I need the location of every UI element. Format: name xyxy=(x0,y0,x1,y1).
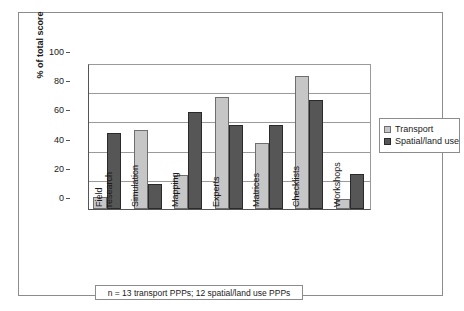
y-tick-label: 60 xyxy=(40,106,64,115)
x-category-label: Mapping xyxy=(170,141,180,207)
y-tick-mark xyxy=(66,81,70,82)
y-tick-label: 80 xyxy=(40,77,64,86)
x-category-label: Checklists xyxy=(291,141,301,207)
footnote-box: n = 13 transport PPPs; 12 spatial/land u… xyxy=(95,285,303,300)
bar-spatial-land-use xyxy=(148,184,162,209)
figure-frame: % of total score 020406080100 Field rese… xyxy=(18,12,443,296)
legend-item-spatial-land-use: Spatial/land use xyxy=(384,136,456,146)
y-tick-label: 20 xyxy=(40,165,64,174)
y-tick-label: 100 xyxy=(40,48,64,57)
y-tick-label: 40 xyxy=(40,136,64,145)
bar-spatial-land-use xyxy=(350,174,364,209)
x-tick-mark xyxy=(272,199,273,203)
x-category-label: Workshops xyxy=(332,141,342,207)
bar-spatial-land-use xyxy=(269,125,283,209)
x-tick-mark xyxy=(353,199,354,203)
legend-label-transport: Transport xyxy=(395,124,433,134)
bar-spatial-land-use xyxy=(309,100,323,209)
legend-swatch-icon-spatial-land-use xyxy=(384,138,391,145)
bar-spatial-land-use xyxy=(188,112,202,209)
x-tick-mark xyxy=(313,199,314,203)
y-tick-mark xyxy=(66,110,70,111)
x-category-label: Simulation xyxy=(130,141,140,207)
x-category-label: Field research xyxy=(94,141,114,207)
legend-swatch-icon-transport xyxy=(384,126,391,133)
y-tick-mark xyxy=(66,52,70,53)
legend-label-spatial-land-use: Spatial/land use xyxy=(395,136,459,146)
footnote-text: n = 13 transport PPPs; 12 spatial/land u… xyxy=(108,288,291,298)
x-category-label: Matrices xyxy=(251,141,261,207)
chart-legend: Transport Spatial/land use xyxy=(379,118,460,153)
y-tick-mark xyxy=(66,198,70,199)
x-category-label: Experts xyxy=(211,141,221,207)
y-tick-mark xyxy=(66,169,70,170)
x-tick-mark xyxy=(151,199,152,203)
bar-spatial-land-use xyxy=(229,125,243,209)
legend-item-transport: Transport xyxy=(384,124,456,134)
x-tick-mark xyxy=(232,199,233,203)
x-tick-mark xyxy=(191,199,192,203)
y-tick-label: 0 xyxy=(40,194,64,203)
y-tick-mark xyxy=(66,140,70,141)
